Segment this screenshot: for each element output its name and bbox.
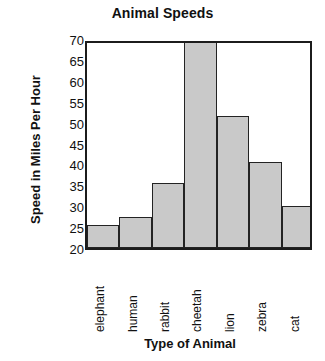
bar-lion	[217, 116, 249, 248]
y-tick-label: 55	[44, 97, 84, 110]
x-axis-title: Type of Animal	[60, 336, 320, 351]
x-tick-label: cat	[288, 316, 300, 332]
y-tick-label: 65	[44, 55, 84, 68]
y-tick-label: 25	[44, 222, 84, 235]
x-tick-slot: human	[117, 252, 149, 334]
x-tick-slot: cat	[280, 252, 312, 334]
bar-zebra	[249, 162, 281, 248]
y-tick-label: 35	[44, 180, 84, 193]
y-tick-label: 20	[44, 243, 84, 256]
x-tick-label: lion	[223, 313, 235, 332]
x-tick-label: zebra	[256, 302, 268, 332]
x-tick-label: cheetah	[191, 289, 203, 332]
bar-human	[119, 217, 151, 248]
y-tick-label: 30	[44, 201, 84, 214]
bar-cheetah	[184, 41, 216, 248]
x-tick-label: human	[126, 295, 138, 332]
x-tick-slot: elephant	[85, 252, 117, 334]
plot-area	[85, 41, 312, 250]
x-tick-slot: zebra	[247, 252, 279, 334]
x-tick-slot: cheetah	[182, 252, 214, 334]
x-tick-slot: rabbit	[150, 252, 182, 334]
y-tick-label: 70	[44, 34, 84, 47]
y-tick-label: 45	[44, 139, 84, 152]
x-tick-slot: lion	[215, 252, 247, 334]
x-axis-tick-labels: elephanthumanrabbitcheetahlionzebracat	[85, 252, 312, 334]
bar-rabbit	[152, 183, 184, 248]
bar-elephant	[87, 225, 119, 248]
bar-cat	[282, 206, 312, 248]
x-tick-label: rabbit	[159, 302, 171, 332]
x-tick-label: elephant	[94, 286, 106, 332]
y-tick-label: 50	[44, 118, 84, 131]
y-tick-label: 60	[44, 76, 84, 89]
y-tick-label: 40	[44, 159, 84, 172]
bar-chart: Animal Speeds Speed in Miles Per Hour 70…	[0, 0, 325, 361]
bar-series	[87, 43, 310, 248]
